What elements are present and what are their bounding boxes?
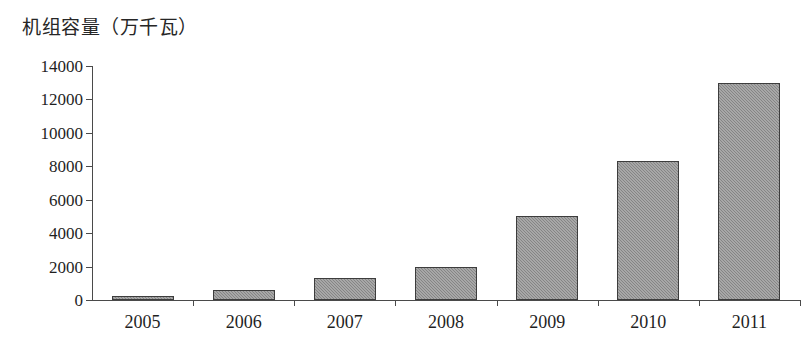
x-axis-tick	[497, 300, 498, 306]
x-axis-label-2010: 2010	[630, 312, 666, 332]
y-axis-tick-label: 4000	[49, 225, 83, 242]
bar-2005	[112, 296, 174, 300]
bars-layer	[92, 66, 800, 300]
x-axis-line	[92, 300, 800, 301]
chart-page: 机组容量（万千瓦） 020004000600080001000012000140…	[0, 0, 811, 363]
y-axis-tick-label: 2000	[49, 258, 83, 275]
y-axis-tick-label: 6000	[49, 191, 83, 208]
y-axis-tick-label: 12000	[41, 91, 84, 108]
y-axis-tick-label: 10000	[41, 124, 84, 141]
bar-2009	[516, 216, 578, 300]
x-axis-tick	[699, 300, 700, 306]
x-axis-tick	[193, 300, 194, 306]
x-axis-tick	[294, 300, 295, 306]
x-axis-label-2007: 2007	[327, 312, 363, 332]
x-axis-label-2011: 2011	[732, 312, 767, 332]
y-axis-tick-label: 0	[75, 292, 84, 309]
bar-2006	[213, 290, 275, 300]
chart-title: 机组容量（万千瓦）	[22, 17, 198, 39]
plot-area: 02000400060008000100001200014000 2005200…	[92, 66, 800, 300]
y-axis-tick	[86, 300, 92, 301]
x-axis-label-2006: 2006	[226, 312, 262, 332]
bar-2007	[314, 278, 376, 300]
x-axis-tick	[395, 300, 396, 306]
y-axis-tick-label: 8000	[49, 158, 83, 175]
bar-2011	[718, 83, 780, 300]
x-axis-tick	[800, 300, 801, 306]
x-axis-tick	[598, 300, 599, 306]
bar-2008	[415, 267, 477, 300]
y-axis-tick-label: 14000	[41, 58, 84, 75]
x-axis-label-2005: 2005	[125, 312, 161, 332]
x-axis-label-2009: 2009	[529, 312, 565, 332]
bar-2010	[617, 161, 679, 300]
x-axis-label-2008: 2008	[428, 312, 464, 332]
